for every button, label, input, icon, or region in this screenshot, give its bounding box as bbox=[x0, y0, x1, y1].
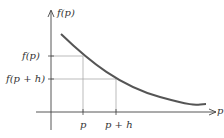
tick-label-ph: p + h bbox=[105, 120, 133, 130]
tick-label-fph: f(p + h) bbox=[6, 74, 45, 84]
plot-graphics bbox=[0, 0, 224, 138]
x-axis-label: p bbox=[217, 106, 223, 116]
tick-label-p: p bbox=[80, 120, 86, 130]
y-axis-label: f(p) bbox=[57, 8, 75, 18]
tick-label-fp: f(p) bbox=[22, 51, 40, 61]
diagram: f(p) p f(p) f(p + h) p p + h bbox=[0, 0, 224, 138]
